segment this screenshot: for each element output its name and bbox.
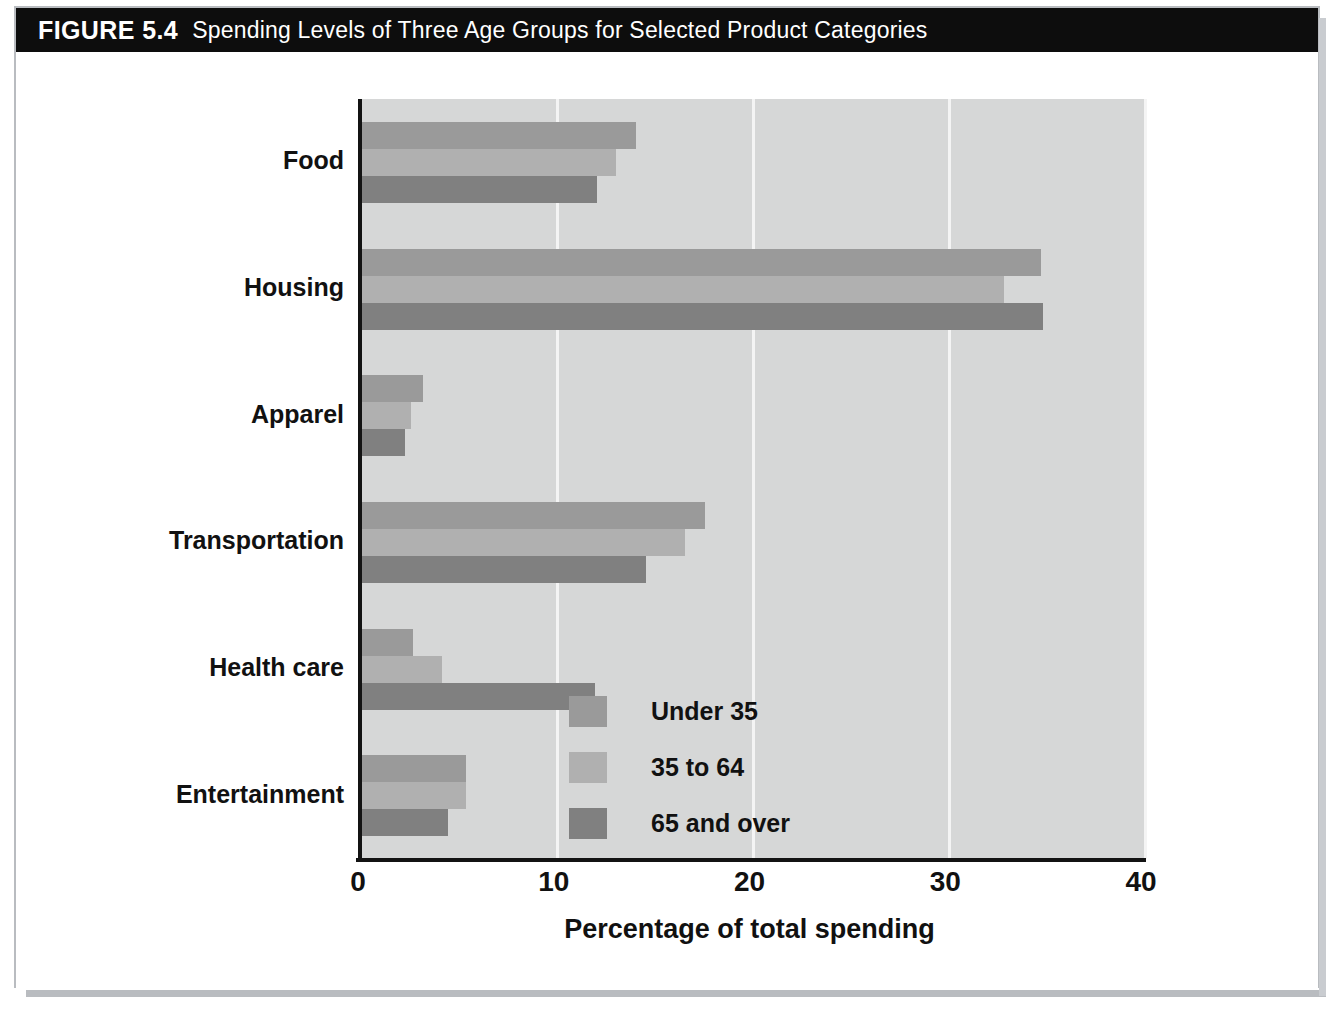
category-label-transportation: Transportation	[28, 526, 358, 555]
x-tick-label-30: 30	[930, 866, 961, 898]
legend-item-65-and-over[interactable]: 65 and over	[569, 795, 819, 851]
bar-group-transportation	[362, 502, 1145, 583]
bar-apparel-under-35	[362, 375, 423, 402]
figure-title: Spending Levels of Three Age Groups for …	[192, 17, 927, 44]
bar-transportation-35-to-64	[362, 529, 685, 556]
bar-group-housing	[362, 249, 1145, 330]
x-tick-label-40: 40	[1125, 866, 1156, 898]
legend-swatch-icon	[569, 752, 607, 783]
category-label-food: Food	[28, 146, 358, 175]
gridline-40	[1144, 99, 1147, 859]
category-label-apparel: Apparel	[28, 400, 358, 429]
bar-transportation-under-35	[362, 502, 705, 529]
bar-group-apparel	[362, 375, 1145, 456]
bar-housing-under-35	[362, 249, 1041, 276]
x-axis-line	[356, 858, 1146, 862]
gridline-30	[948, 99, 951, 859]
bar-entertainment-35-to-64	[362, 782, 466, 809]
bar-food-under-35	[362, 122, 636, 149]
x-tick-label-10: 10	[538, 866, 569, 898]
figure-shadow-right	[1319, 18, 1326, 996]
bar-health-care-under-35	[362, 629, 413, 656]
x-axis-title: Percentage of total spending	[358, 914, 1141, 945]
gridline-10	[556, 99, 559, 859]
category-label-housing: Housing	[28, 273, 358, 302]
x-tick-label-0: 0	[350, 866, 366, 898]
legend-swatch-icon	[569, 808, 607, 839]
bar-transportation-65-and-over	[362, 556, 646, 583]
figure-shadow-bottom	[26, 990, 1326, 997]
bar-housing-35-to-64	[362, 276, 1004, 303]
chart-legend: Under 3535 to 6465 and over	[569, 683, 819, 851]
bar-entertainment-under-35	[362, 755, 466, 782]
category-label-health-care: Health care	[28, 653, 358, 682]
legend-item-35-to-64[interactable]: 35 to 64	[569, 739, 819, 795]
legend-label: 65 and over	[651, 809, 790, 838]
bar-housing-65-and-over	[362, 303, 1043, 330]
bar-apparel-65-and-over	[362, 429, 405, 456]
legend-label: 35 to 64	[651, 753, 744, 782]
bar-food-65-and-over	[362, 176, 597, 203]
legend-item-under-35[interactable]: Under 35	[569, 683, 819, 739]
figure-root: FIGURE 5.4 Spending Levels of Three Age …	[0, 0, 1334, 1018]
bar-health-care-35-to-64	[362, 656, 442, 683]
legend-swatch-icon	[569, 696, 607, 727]
bar-apparel-35-to-64	[362, 402, 411, 429]
bar-health-care-65-and-over	[362, 683, 595, 710]
figure-number: FIGURE 5.4	[38, 16, 178, 45]
legend-label: Under 35	[651, 697, 758, 726]
category-axis-labels: FoodHousingApparelTransportationHealth c…	[16, 99, 358, 859]
bar-entertainment-65-and-over	[362, 809, 448, 836]
x-axis-tick-labels: 010203040	[358, 866, 1141, 906]
bar-group-food	[362, 122, 1145, 203]
x-tick-label-20: 20	[734, 866, 765, 898]
chart-area: FoodHousingApparelTransportationHealth c…	[16, 52, 1318, 988]
bar-food-35-to-64	[362, 149, 616, 176]
category-label-entertainment: Entertainment	[28, 780, 358, 809]
figure-title-bar: FIGURE 5.4 Spending Levels of Three Age …	[16, 8, 1318, 52]
